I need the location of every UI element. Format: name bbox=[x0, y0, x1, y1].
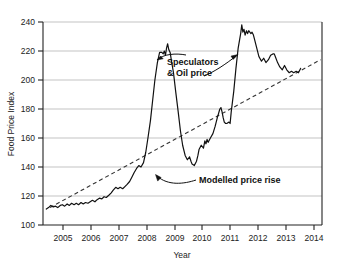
y-tick-labels: 240 220 200 180 160 140 120 100 bbox=[21, 17, 35, 230]
y-tick-label: 140 bbox=[21, 162, 35, 172]
x-tick-marks bbox=[63, 225, 314, 230]
x-tick-label: 2008 bbox=[138, 233, 157, 243]
x-tick-label: 2014 bbox=[305, 233, 324, 243]
y-tick-label: 240 bbox=[21, 17, 35, 27]
x-tick-label: 2007 bbox=[110, 233, 129, 243]
chart-svg: 240 220 200 180 160 140 120 100 2005 200… bbox=[0, 0, 337, 267]
x-tick-label: 2009 bbox=[166, 233, 185, 243]
y-tick-marks bbox=[38, 22, 43, 225]
x-tick-label: 2010 bbox=[193, 233, 212, 243]
x-tick-label: 2013 bbox=[277, 233, 296, 243]
x-tick-label: 2012 bbox=[249, 233, 268, 243]
x-tick-label: 2005 bbox=[54, 233, 73, 243]
plot-area bbox=[43, 22, 322, 225]
y-tick-label: 120 bbox=[21, 191, 35, 201]
food-price-index-chart: 240 220 200 180 160 140 120 100 2005 200… bbox=[0, 0, 337, 267]
x-axis-title: Year bbox=[173, 250, 190, 260]
x-tick-labels: 2005 2006 2007 2008 2009 2010 2011 2012 … bbox=[54, 233, 324, 243]
x-tick-label: 2006 bbox=[82, 233, 101, 243]
annotation-speculators-line1: Speculators bbox=[167, 57, 219, 67]
annotation-modelled-label: Modelled price rise bbox=[199, 175, 281, 185]
x-tick-label: 2011 bbox=[221, 233, 240, 243]
y-tick-label: 180 bbox=[21, 104, 35, 114]
annotation-speculators-line2: & Oil price bbox=[167, 68, 212, 78]
y-tick-label: 100 bbox=[21, 220, 35, 230]
y-tick-label: 220 bbox=[21, 46, 35, 56]
y-tick-label: 160 bbox=[21, 133, 35, 143]
y-axis-title: Food Price Index bbox=[6, 91, 16, 156]
y-tick-label: 200 bbox=[21, 75, 35, 85]
